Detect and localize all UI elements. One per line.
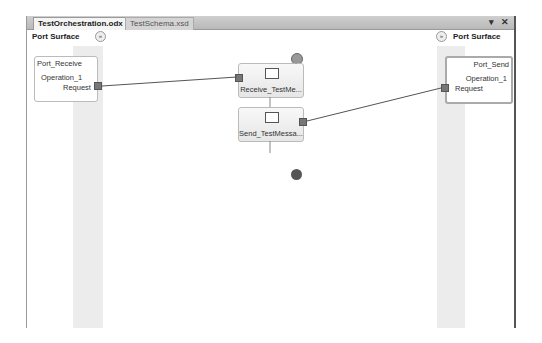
orchestration-designer-window: TestOrchestration.odx TestSchema.xsd ▾ ✕… xyxy=(26,16,516,328)
connector-lines xyxy=(27,16,514,328)
